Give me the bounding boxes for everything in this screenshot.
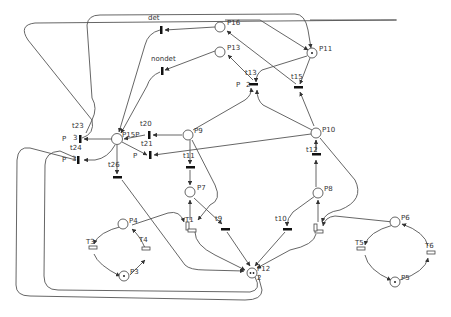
arc-top-det-to-p11 — [86, 14, 311, 133]
place-p10-label: P10 — [322, 126, 335, 134]
token — [253, 272, 255, 274]
place-p13-label: P13 — [227, 44, 240, 52]
transition-nondet-label: nondet — [151, 55, 176, 63]
place-p6[interactable]: P6 — [390, 214, 410, 227]
transition-t23-label: t23 — [72, 122, 84, 130]
transition-t26[interactable]: t26 — [108, 161, 122, 179]
transition-t12-label: t12 — [306, 146, 318, 154]
arc-p6-t5 — [365, 225, 393, 245]
arc-p9-t13 — [193, 88, 251, 130]
arc-p10-t21 — [154, 134, 311, 155]
place-p15p-label: P15P — [122, 131, 139, 139]
arc-t7-p12 — [257, 234, 316, 268]
place-p16-label: P16 — [227, 19, 241, 27]
transition-t9-label: t9 — [215, 215, 222, 223]
transition-t4[interactable]: T4 — [138, 236, 150, 250]
arc-p10-t7 — [320, 138, 358, 222]
transition-nondet[interactable]: nondet — [151, 55, 176, 75]
place-p15p[interactable]: P15P — [112, 131, 140, 145]
transition-t21[interactable]: t21 P — [133, 140, 153, 160]
transition-t13-label: t13 — [245, 69, 257, 77]
arc-p10-t13 — [257, 90, 312, 130]
place-p6-label: P6 — [401, 214, 410, 222]
arc-t9-p12 — [227, 232, 250, 266]
arc-p4-t3 — [94, 226, 123, 244]
place-p9-label: P9 — [194, 127, 203, 135]
transition-det-label: det — [148, 14, 160, 22]
place-p4-label: P4 — [129, 217, 138, 225]
transition-t21-label: t21 — [141, 140, 153, 148]
t23-priority-label: P — [62, 135, 66, 143]
t23-weight-label: 3 — [73, 134, 77, 142]
transition-det[interactable]: det — [148, 14, 163, 34]
petri-net-canvas: P16 P13 P11 P15P P9 P10 P7 P8 — [0, 0, 451, 317]
place-p3[interactable]: P3 — [119, 268, 139, 281]
transition-t3-label: T3 — [85, 238, 95, 246]
arc-p6-t7 — [323, 216, 393, 226]
place-p7-label: P7 — [197, 184, 206, 192]
place-p5-label: P5 — [401, 274, 410, 282]
place-p8-label: P8 — [324, 185, 333, 193]
arc-p16-det — [165, 27, 215, 30]
arc-p4-t1 — [132, 212, 184, 225]
transition-t4-label: T4 — [138, 236, 148, 244]
arc-t3-p3 — [94, 254, 120, 276]
t24-weight-label: 3 — [72, 155, 76, 163]
token — [250, 272, 252, 274]
transition-t3[interactable]: T3 — [85, 238, 97, 249]
transition-t23[interactable]: t23 P 3 — [62, 122, 84, 143]
token — [123, 275, 125, 277]
place-p4[interactable]: P4 — [118, 217, 138, 229]
place-p13[interactable]: P13 — [215, 44, 240, 57]
transition-t24[interactable]: t24 P 3 — [62, 144, 82, 164]
arc-t5-p5 — [365, 255, 391, 280]
arc-t24-loop — [16, 148, 262, 300]
place-p12-label: P12 — [257, 265, 270, 273]
t24-priority-label: P — [62, 156, 66, 164]
arc-t15-p16 — [227, 31, 296, 84]
t13-priority-label: P — [236, 81, 240, 89]
p12-weight-label: 2 — [257, 274, 261, 282]
transition-t2[interactable]: T2 — [188, 229, 196, 232]
transition-t1-label: T1 — [184, 216, 194, 224]
arc-t26-p12 — [122, 180, 244, 271]
arc-p10-t15 — [300, 92, 314, 126]
place-p16[interactable]: P16 — [215, 19, 241, 32]
transition-t1[interactable]: T1 — [184, 216, 194, 230]
arc-t2-p12 — [195, 232, 245, 270]
t21-priority-label: P — [133, 152, 137, 160]
transition-t11-label: t11 — [183, 152, 195, 160]
token — [394, 281, 396, 283]
transition-t5[interactable]: T5 — [354, 239, 365, 250]
place-p5[interactable]: P5 — [390, 274, 410, 287]
place-p3-label: P3 — [130, 268, 139, 276]
transition-t6-label: T6 — [424, 242, 434, 250]
transition-t26-label: t26 — [108, 161, 120, 169]
place-p10[interactable]: P10 — [311, 126, 335, 138]
transition-t7[interactable] — [314, 224, 323, 233]
transition-t12[interactable]: t12 — [306, 146, 321, 156]
transition-t10-label: t10 — [275, 215, 287, 223]
place-p7[interactable]: P7 — [185, 184, 206, 197]
transition-t15-label: t15 — [291, 73, 303, 81]
transition-t5-label: T5 — [354, 239, 364, 247]
place-p11-label: P11 — [319, 45, 332, 53]
place-p12[interactable]: P12 2 — [247, 265, 270, 282]
transition-t15[interactable]: t15 — [291, 73, 303, 89]
transition-t9[interactable]: t9 — [215, 215, 230, 231]
transition-t11[interactable]: t11 — [183, 152, 195, 169]
arc-det-p15p — [119, 30, 160, 132]
transition-t20[interactable]: t20 — [140, 120, 152, 139]
transition-t20-label: t20 — [140, 120, 152, 128]
t13-weight-label: 2 — [246, 81, 250, 89]
transition-t24-label: t24 — [70, 144, 82, 152]
arc-p15p-t24 — [84, 145, 115, 160]
token — [311, 52, 313, 54]
arc-p8-t10 — [287, 196, 315, 226]
transition-t6[interactable]: T6 — [424, 242, 435, 254]
place-p9[interactable]: P9 — [183, 127, 203, 140]
transition-t13[interactable]: t13 P 2 — [236, 69, 258, 89]
